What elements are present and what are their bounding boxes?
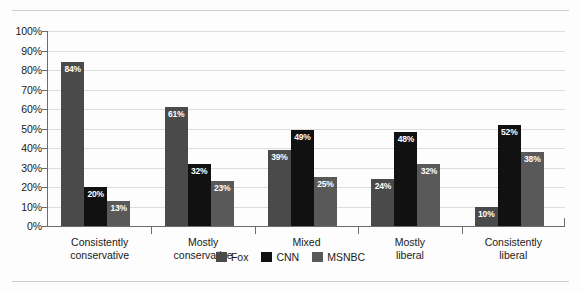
- bar-cnn: 49%: [291, 130, 314, 226]
- bar-value-label: 32%: [188, 166, 211, 176]
- y-axis-tick-mark: [42, 109, 48, 110]
- y-axis-tick-label: 30%: [0, 162, 42, 174]
- bar-msnbc: 38%: [521, 152, 544, 226]
- legend-swatch-icon: [261, 252, 272, 262]
- bar-fox: 61%: [165, 107, 188, 226]
- legend-swatch-icon: [312, 252, 323, 262]
- bar-value-label: 48%: [394, 134, 417, 144]
- y-axis-tick-mark: [42, 207, 48, 208]
- bar-fox: 39%: [268, 150, 291, 226]
- bar-value-label: 23%: [211, 183, 234, 193]
- y-axis-tick-mark: [42, 226, 48, 227]
- bar-value-label: 20%: [84, 189, 107, 199]
- bar-chart-figure: 0%10%20%30%40%50%60%70%80%90%100% 84%20%…: [0, 0, 581, 292]
- legend-swatch-icon: [216, 252, 227, 262]
- bar-value-label: 25%: [314, 179, 337, 189]
- bar-cnn: 20%: [84, 187, 107, 226]
- bottom-divider-rule: [12, 281, 569, 282]
- bar-value-label: 84%: [61, 64, 84, 74]
- y-axis-tick-mark: [42, 90, 48, 91]
- legend-item-fox[interactable]: Fox: [216, 251, 249, 263]
- legend-item-cnn[interactable]: CNN: [261, 251, 299, 263]
- bar-value-label: 38%: [521, 154, 544, 164]
- x-axis-line: [47, 226, 565, 227]
- bar-value-label: 39%: [268, 152, 291, 162]
- x-axis-tick-mark: [462, 226, 463, 234]
- bar-fox: 10%: [475, 207, 498, 227]
- bar-cnn: 52%: [498, 125, 521, 226]
- legend-label: MSNBC: [327, 251, 365, 263]
- bar-value-label: 13%: [107, 203, 130, 213]
- y-axis-tick-mark: [42, 70, 48, 71]
- y-axis-tick-mark: [42, 187, 48, 188]
- bar-msnbc: 13%: [107, 201, 130, 226]
- y-axis-tick-mark: [42, 168, 48, 169]
- bar-cnn: 32%: [188, 164, 211, 226]
- y-axis-tick-label: 70%: [0, 84, 42, 96]
- top-divider-rule: [12, 10, 569, 11]
- bar-msnbc: 23%: [211, 181, 234, 226]
- y-axis-tick-label: 0%: [0, 220, 42, 232]
- y-axis-tick-mark: [42, 31, 48, 32]
- legend-label: Fox: [231, 251, 249, 263]
- bar-msnbc: 32%: [417, 164, 440, 226]
- bar-cnn: 48%: [394, 132, 417, 226]
- bar-value-label: 52%: [498, 127, 521, 137]
- x-axis-right-end-tick: [564, 218, 565, 227]
- y-axis-tick-label: 100%: [0, 25, 42, 37]
- legend-item-msnbc[interactable]: MSNBC: [312, 251, 365, 263]
- bar-value-label: 49%: [291, 132, 314, 142]
- y-axis-tick-label: 80%: [0, 64, 42, 76]
- category-label: Mixed: [255, 236, 358, 249]
- y-axis-tick-label: 60%: [0, 103, 42, 115]
- bar-fox: 24%: [371, 179, 394, 226]
- x-axis-tick-mark: [358, 226, 359, 234]
- bar-fox: 84%: [61, 62, 84, 226]
- bar-value-label: 61%: [165, 109, 188, 119]
- x-axis-tick-mark: [151, 226, 152, 234]
- y-axis-tick-label: 50%: [0, 123, 42, 135]
- legend-label: CNN: [276, 251, 299, 263]
- y-axis-tick-mark: [42, 148, 48, 149]
- y-axis-tick-mark: [42, 129, 48, 130]
- y-axis-tick-label: 40%: [0, 142, 42, 154]
- y-axis-tick-label: 90%: [0, 45, 42, 57]
- bar-value-label: 10%: [475, 209, 498, 219]
- chart-legend: FoxCNNMSNBC: [0, 251, 581, 263]
- y-axis-tick-label: 10%: [0, 201, 42, 213]
- bar-msnbc: 25%: [314, 177, 337, 226]
- bar-value-label: 24%: [371, 181, 394, 191]
- x-axis-tick-mark: [255, 226, 256, 234]
- bar-value-label: 32%: [417, 166, 440, 176]
- y-axis-tick-mark: [42, 51, 48, 52]
- y-axis-tick-label: 20%: [0, 181, 42, 193]
